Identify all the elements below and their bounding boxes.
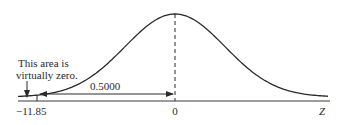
area-label: 0.5000 [90,80,121,92]
left-tick-label: −11.85 [16,105,47,117]
normal-curve-diagram: This area is virtually zero. 0.5000 −11.… [0,0,349,125]
annotation-line2: virtually zero. [16,69,78,81]
annotation-line1: This area is [18,57,69,69]
axis-label: Z [319,105,326,117]
normal-curve [18,14,328,96]
center-tick-label: 0 [172,105,178,117]
